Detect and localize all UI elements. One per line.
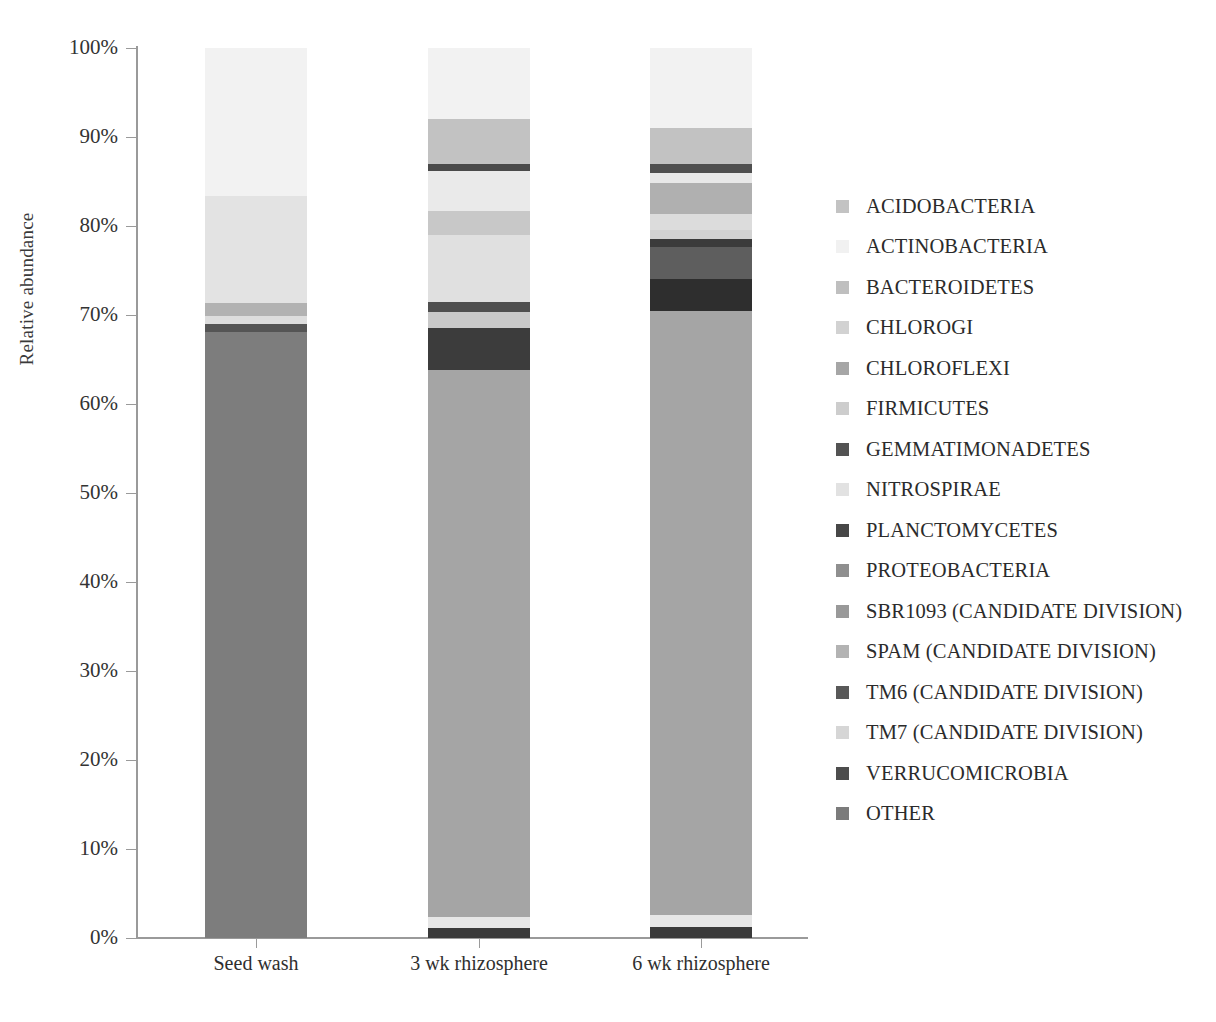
bar-segment[interactable] [205, 324, 307, 332]
y-tick-label: 90% [0, 124, 118, 149]
legend-item[interactable]: CHLOROGI [836, 308, 1208, 349]
bar-segment[interactable] [428, 171, 530, 211]
legend-item[interactable]: FIRMICUTES [836, 389, 1208, 430]
legend-label: FIRMICUTES [866, 397, 989, 420]
legend-item[interactable]: PROTEOBACTERIA [836, 551, 1208, 592]
legend-label: ACTINOBACTERIA [866, 235, 1048, 258]
legend-label: OTHER [866, 802, 935, 825]
legend-item[interactable]: VERRUCOMICROBIA [836, 753, 1208, 794]
y-tick-mark [126, 137, 137, 138]
y-tick-label: 20% [0, 747, 118, 772]
y-tick-mark [126, 315, 137, 316]
bar-segment[interactable] [428, 119, 530, 164]
y-tick-mark [126, 849, 137, 850]
y-tick-mark [126, 226, 137, 227]
legend-item[interactable]: TM7 (CANDIDATE DIVISION) [836, 713, 1208, 754]
bar-segment[interactable] [650, 183, 752, 214]
legend-swatch-icon [836, 321, 849, 334]
legend-item[interactable]: TM6 (CANDIDATE DIVISION) [836, 672, 1208, 713]
bar-segment[interactable] [650, 247, 752, 279]
bar-segment[interactable] [205, 316, 307, 324]
legend-swatch-icon [836, 645, 849, 658]
bar-segment[interactable] [650, 214, 752, 229]
legend: ACIDOBACTERIAACTINOBACTERIABACTEROIDETES… [836, 186, 1208, 834]
legend-item[interactable]: GEMMATIMONADETES [836, 429, 1208, 470]
legend-item[interactable]: SBR1093 (CANDIDATE DIVISION) [836, 591, 1208, 632]
bar-segment[interactable] [650, 927, 752, 938]
bar-segment[interactable] [650, 239, 752, 247]
legend-swatch-icon [836, 200, 849, 213]
bar-segment[interactable] [650, 915, 752, 927]
bar-segment[interactable] [205, 196, 307, 303]
bar-segment[interactable] [428, 235, 530, 302]
bar-segment[interactable] [205, 303, 307, 316]
legend-label: SBR1093 (CANDIDATE DIVISION) [866, 600, 1182, 623]
legend-item[interactable]: PLANCTOMYCETES [836, 510, 1208, 551]
bar-segment[interactable] [428, 370, 530, 916]
x-axis-category-label: Seed wash [141, 952, 371, 975]
bar-segment[interactable] [428, 164, 530, 171]
y-tick-mark [126, 493, 137, 494]
legend-item[interactable]: OTHER [836, 794, 1208, 835]
legend-item[interactable]: ACTINOBACTERIA [836, 227, 1208, 268]
y-tick-label: 40% [0, 569, 118, 594]
bar-segment[interactable] [428, 211, 530, 235]
bar-segment[interactable] [650, 311, 752, 914]
legend-item[interactable]: NITROSPIRAE [836, 470, 1208, 511]
bar-2[interactable] [428, 48, 530, 938]
bar-segment[interactable] [650, 230, 752, 240]
y-tick-label: 10% [0, 836, 118, 861]
y-tick-mark [126, 938, 137, 939]
y-tick-mark [126, 404, 137, 405]
legend-item[interactable]: CHLOROFLEXI [836, 348, 1208, 389]
y-tick-label: 0% [0, 925, 118, 950]
legend-swatch-icon [836, 362, 849, 375]
bar-segment[interactable] [428, 917, 530, 929]
bar-segment[interactable] [428, 928, 530, 938]
legend-label: NITROSPIRAE [866, 478, 1001, 501]
bar-1[interactable] [205, 48, 307, 938]
legend-item[interactable]: BACTEROIDETES [836, 267, 1208, 308]
bar-segment[interactable] [428, 48, 530, 119]
legend-swatch-icon [836, 564, 849, 577]
bar-segment[interactable] [428, 312, 530, 328]
bar-segment[interactable] [650, 48, 752, 128]
x-axis-category-label: 6 wk rhizosphere [586, 952, 816, 975]
y-tick-mark [126, 48, 137, 49]
bar-segment[interactable] [205, 332, 307, 938]
bar-3[interactable] [650, 48, 752, 938]
x-tick-mark [479, 939, 480, 948]
legend-label: ACIDOBACTERIA [866, 195, 1035, 218]
y-tick-label: 80% [0, 213, 118, 238]
legend-label: CHLOROFLEXI [866, 357, 1010, 380]
y-tick-label: 100% [0, 35, 118, 60]
x-tick-mark [256, 939, 257, 948]
y-tick-label: 60% [0, 391, 118, 416]
legend-swatch-icon [836, 240, 849, 253]
x-axis-category-label: 3 wk rhizosphere [364, 952, 594, 975]
legend-swatch-icon [836, 686, 849, 699]
bar-segment[interactable] [428, 328, 530, 370]
legend-label: CHLOROGI [866, 316, 973, 339]
legend-label: VERRUCOMICROBIA [866, 762, 1069, 785]
legend-swatch-icon [836, 726, 849, 739]
bar-segment[interactable] [650, 128, 752, 164]
bar-segment[interactable] [650, 279, 752, 311]
y-tick-mark [126, 760, 137, 761]
y-tick-label: 30% [0, 658, 118, 683]
bar-segment[interactable] [650, 164, 752, 173]
legend-label: BACTEROIDETES [866, 276, 1034, 299]
legend-swatch-icon [836, 443, 849, 456]
legend-label: PLANCTOMYCETES [866, 519, 1058, 542]
legend-item[interactable]: ACIDOBACTERIA [836, 186, 1208, 227]
legend-label: TM7 (CANDIDATE DIVISION) [866, 721, 1143, 744]
bar-segment[interactable] [428, 302, 530, 313]
y-tick-label: 50% [0, 480, 118, 505]
legend-item[interactable]: SPAM (CANDIDATE DIVISION) [836, 632, 1208, 673]
legend-swatch-icon [836, 402, 849, 415]
legend-label: PROTEOBACTERIA [866, 559, 1050, 582]
bar-segment[interactable] [650, 173, 752, 184]
y-tick-mark [126, 582, 137, 583]
bar-segment[interactable] [205, 48, 307, 196]
legend-label: TM6 (CANDIDATE DIVISION) [866, 681, 1143, 704]
